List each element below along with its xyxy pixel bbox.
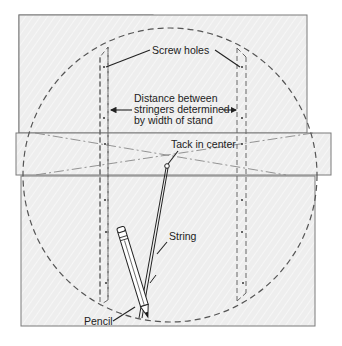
pencil-label: Pencil: [84, 315, 113, 327]
tack-icon: [165, 164, 170, 169]
screw-holes-label: Screw holes: [152, 44, 209, 56]
string-label: String: [169, 230, 197, 242]
distance-label-line3: by width of stand: [134, 114, 213, 126]
diagram-layer: Screw holes Distance between stringers d…: [0, 0, 342, 346]
tack-label: Tack in center: [171, 138, 236, 150]
bottom-board: [21, 176, 315, 326]
